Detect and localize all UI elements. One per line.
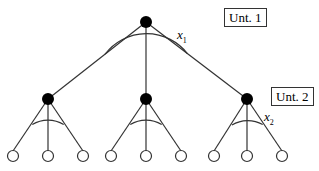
tree-diagram: [0, 0, 319, 171]
edge-child-leaf: [111, 99, 146, 151]
leaf-node: [106, 151, 117, 162]
internal-node: [241, 93, 253, 105]
leaf-node: [242, 151, 253, 162]
leaf-node: [209, 151, 220, 162]
angle-label-x1: x1: [177, 27, 187, 45]
edge-child-leaf: [48, 99, 83, 151]
edge-root-child-2: [146, 22, 247, 99]
internal-node: [42, 93, 54, 105]
edge-child-leaf: [13, 99, 48, 151]
internal-node: [140, 93, 152, 105]
edge-child-leaf: [214, 99, 247, 151]
edge-child-leaf: [146, 99, 181, 151]
leaf-node: [141, 151, 152, 162]
unit-1-label: Unt. 1: [224, 8, 267, 27]
unit-2-label: Unt. 2: [271, 87, 314, 106]
leaf-node: [8, 151, 19, 162]
root-node: [140, 16, 152, 28]
edge-root-child-0: [48, 22, 146, 99]
leaf-node: [43, 151, 54, 162]
leaf-node: [78, 151, 89, 162]
leaf-node: [176, 151, 187, 162]
leaf-node: [277, 151, 288, 162]
angle-label-x2: x2: [264, 109, 274, 127]
